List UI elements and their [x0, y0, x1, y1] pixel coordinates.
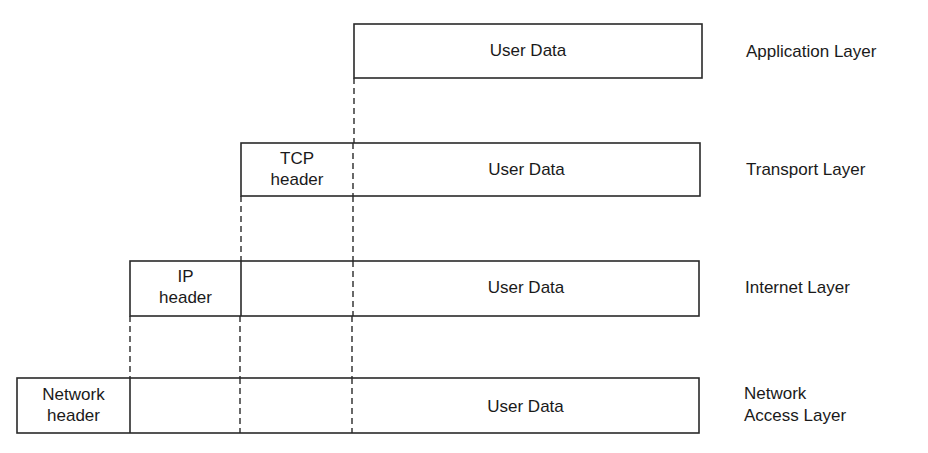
network-user-data-label: User Data [352, 396, 699, 417]
network-header-line2: header [17, 405, 130, 426]
network-access-layer-line2: Access Layer [744, 405, 846, 427]
internet-layer-label: Internet Layer [745, 277, 850, 299]
tcp-header-line1: TCP [241, 148, 353, 169]
tcp-header-line2: header [241, 169, 353, 190]
ip-header-line2: header [130, 287, 241, 308]
encapsulation-diagram: User Data Application Layer TCP header U… [0, 0, 928, 453]
network-header-label: Network header [17, 384, 130, 426]
application-layer-label: Application Layer [746, 41, 876, 63]
tcp-header-label: TCP header [241, 148, 353, 190]
application-user-data-label: User Data [354, 40, 702, 61]
ip-header-line1: IP [130, 266, 241, 287]
internet-user-data-label: User Data [353, 277, 699, 298]
transport-user-data-label: User Data [353, 159, 700, 180]
ip-header-label: IP header [130, 266, 241, 308]
network-access-layer-line1: Network [744, 383, 846, 405]
transport-layer-label: Transport Layer [746, 159, 865, 181]
network-access-layer-label: Network Access Layer [744, 383, 846, 427]
network-header-line1: Network [17, 384, 130, 405]
